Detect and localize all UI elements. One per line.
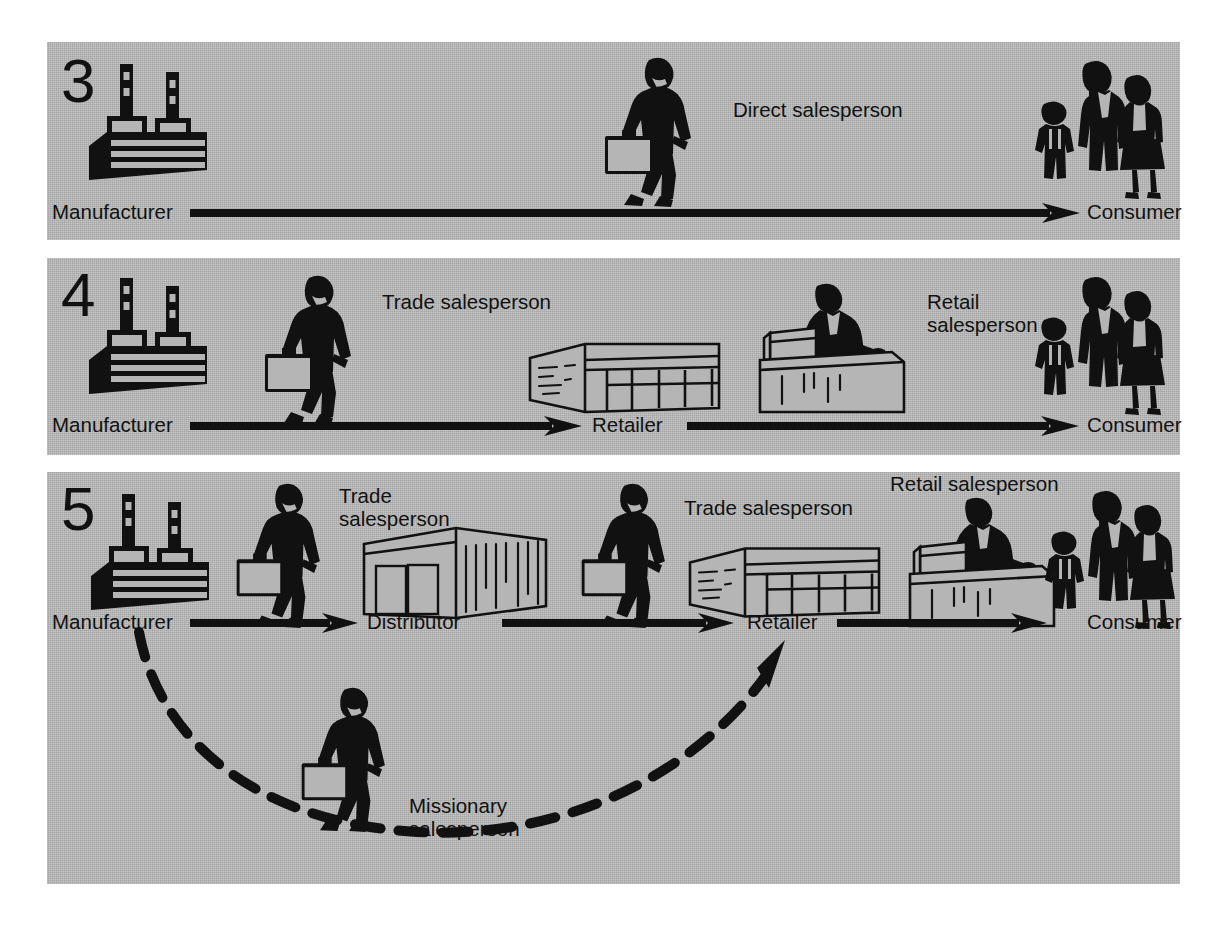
node-label-consumer: Consumer	[1087, 200, 1182, 224]
node-label-manufacturer: Manufacturer	[52, 610, 173, 634]
role-label-trade-salesperson-1: Trade salesperson	[339, 484, 450, 531]
arrow-manufacturer-to-retailer	[190, 413, 582, 443]
diagram-canvas: 3	[0, 0, 1227, 944]
panel-channel-4: 4	[47, 258, 1180, 455]
arrow-manufacturer-to-consumer	[190, 200, 1080, 230]
walking-salesperson-icon	[602, 54, 712, 209]
walking-salesperson-icon	[577, 480, 687, 630]
node-label-distributor: Distributor	[367, 610, 460, 634]
step-number-4: 4	[61, 264, 95, 326]
role-label-retail-salesperson: Retail salesperson	[927, 290, 1038, 337]
node-label-consumer: Consumer	[1087, 413, 1182, 437]
panel-channel-3: 3	[47, 42, 1180, 240]
step-number-5: 5	[61, 478, 95, 540]
node-label-consumer: Consumer	[1087, 610, 1182, 634]
consumer-family-icon	[1022, 272, 1157, 417]
walking-salesperson-icon	[232, 480, 342, 630]
role-label-retail-salesperson: Retail salesperson	[890, 472, 1059, 495]
role-label-trade-salesperson-2: Trade salesperson	[684, 496, 853, 519]
role-label-trade-salesperson: Trade salesperson	[382, 290, 551, 313]
node-label-manufacturer: Manufacturer	[52, 413, 173, 437]
arrow-retailer-to-consumer	[687, 413, 1079, 443]
node-label-retailer: Retailer	[592, 413, 663, 437]
step-number-3: 3	[61, 50, 95, 112]
node-label-retailer: Retailer	[747, 610, 818, 634]
panel-channel-5: 5	[47, 472, 1180, 884]
walking-salesperson-icon	[262, 272, 372, 427]
role-label-direct-salesperson: Direct salesperson	[733, 98, 903, 121]
node-label-manufacturer: Manufacturer	[52, 200, 173, 224]
arrow-retailer-to-consumer	[837, 610, 1047, 640]
retail-store-icon	[527, 330, 722, 420]
counter-salesperson-icon	[752, 278, 912, 418]
consumer-family-icon	[1022, 56, 1157, 201]
role-label-missionary-salesperson: Missionary salesperson	[409, 794, 520, 841]
